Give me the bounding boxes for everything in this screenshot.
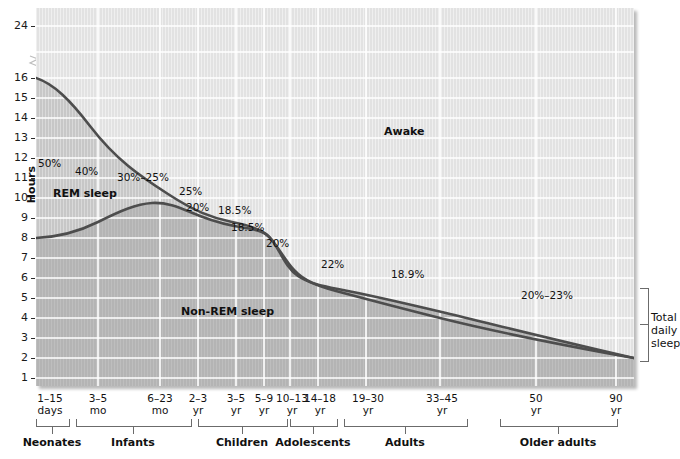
total-daily-sleep-line2: daily (651, 324, 677, 337)
x-tick-bottom-10: yr (512, 404, 560, 416)
y-tick-24: 24 (2, 19, 28, 32)
y-tick-15: 15 (2, 91, 28, 104)
y-tick-11: 11 (2, 171, 28, 184)
y-tick-7: 7 (2, 251, 28, 264)
y-tickmark-2 (31, 358, 35, 359)
y-tickmark-1 (31, 378, 35, 379)
y-tickmark-24 (31, 26, 35, 27)
y-tickmark-13 (31, 138, 35, 139)
pct-label-1: 40% (75, 165, 98, 177)
total-daily-sleep-stem (640, 324, 649, 325)
x-tick-bottom-1: mo (74, 404, 122, 416)
x-tick-top-2: 6–23 (147, 392, 172, 404)
x-tick-bottom-8: yr (344, 404, 392, 416)
y-tickmark-14 (31, 118, 35, 119)
y-tick-1: 1 (2, 371, 28, 384)
x-tick-bottom-11: yr (592, 404, 640, 416)
pct-label-9: 18.9% (391, 268, 424, 280)
y-tickmark-7 (31, 258, 35, 259)
x-tick-8: 19–30yr (344, 392, 392, 416)
group-label-older-adults: Older adults (460, 436, 656, 449)
y-tickmark-10 (31, 198, 35, 199)
x-tick-bottom-7: yr (296, 404, 344, 416)
y-tick-5: 5 (2, 291, 28, 304)
y-tickmark-11 (31, 178, 35, 179)
bracket-stem-1 (133, 426, 134, 434)
y-tick-13: 13 (2, 131, 28, 144)
sleep-lifespan-chart: Hours 2416151413121110987654321 (0, 0, 680, 459)
total-daily-sleep-bracket (640, 288, 649, 362)
bracket-infants (76, 419, 192, 427)
plot-svg (36, 8, 634, 386)
total-daily-sleep-line1: Total (651, 311, 677, 324)
bracket-stem-0 (52, 426, 53, 434)
nonrem-band-label: Non-REM sleep (181, 305, 274, 318)
pct-label-2: 30%–25% (117, 171, 169, 183)
x-tick-top-11: 90 (609, 392, 622, 404)
y-tick-9: 9 (2, 211, 28, 224)
pct-label-10: 20%–23% (521, 289, 573, 301)
bracket-stem-5 (558, 426, 559, 434)
bracket-stem-4 (405, 426, 406, 434)
x-tick-1: 3–5mo (74, 392, 122, 416)
x-tick-bottom-0: days (26, 404, 74, 416)
x-tick-10: 50yr (512, 392, 560, 416)
awake-band-label: Awake (384, 125, 425, 138)
x-tick-0: 1–15days (26, 392, 74, 416)
y-tick-10: 10 (2, 191, 28, 204)
y-tickmark-3 (31, 338, 35, 339)
pct-label-7: 20% (266, 237, 289, 249)
pct-label-0: 50% (38, 157, 61, 169)
x-tick-top-3: 2–3 (189, 392, 208, 404)
y-tick-12: 12 (2, 151, 28, 164)
y-tick-14: 14 (2, 111, 28, 124)
x-tick-top-8: 19–30 (352, 392, 384, 404)
pct-label-4: 20% (186, 201, 209, 213)
pct-label-3: 25% (179, 185, 202, 197)
total-daily-sleep-label: Total daily sleep (651, 311, 680, 350)
total-daily-sleep-line3: sleep (651, 337, 680, 350)
y-tickmark-16 (31, 78, 35, 79)
pct-label-8: 22% (321, 258, 344, 270)
y-tickmark-6 (31, 278, 35, 279)
x-tick-top-1: 3–5 (89, 392, 108, 404)
pct-label-5: 18.5% (218, 204, 251, 216)
bracket-adults (344, 419, 468, 427)
bracket-children (198, 419, 288, 427)
y-tick-8: 8 (2, 231, 28, 244)
bracket-stem-3 (313, 426, 314, 434)
y-tickmark-8 (31, 238, 35, 239)
y-tickmark-15 (31, 98, 35, 99)
y-tickmark-4 (31, 318, 35, 319)
y-tick-2: 2 (2, 351, 28, 364)
y-tick-3: 3 (2, 331, 28, 344)
x-tick-bottom-9: yr (418, 404, 466, 416)
x-tick-11: 90yr (592, 392, 640, 416)
bracket-older-adults (500, 419, 618, 427)
y-tickmark-9 (31, 218, 35, 219)
y-tickmark-5 (31, 298, 35, 299)
x-tick-top-7: 14–18 (304, 392, 336, 404)
x-tick-top-10: 50 (529, 392, 542, 404)
x-tick-top-0: 1–15 (37, 392, 62, 404)
bracket-stem-2 (242, 426, 243, 434)
y-tick-4: 4 (2, 311, 28, 324)
x-tick-9: 33–45yr (418, 392, 466, 416)
rem-band-label: REM sleep (53, 187, 117, 200)
y-tick-6: 6 (2, 271, 28, 284)
x-tick-7: 14–18yr (296, 392, 344, 416)
bracket-neonates (36, 419, 70, 427)
pct-label-6: 18.5% (231, 221, 264, 233)
y-tickmark-12 (31, 158, 35, 159)
x-tick-top-9: 33–45 (426, 392, 458, 404)
y-tick-16: 16 (2, 71, 28, 84)
plot-area: Awake REM sleep Non-REM sleep 50% 40% 30… (36, 8, 634, 386)
bracket-adolescents (290, 419, 338, 427)
